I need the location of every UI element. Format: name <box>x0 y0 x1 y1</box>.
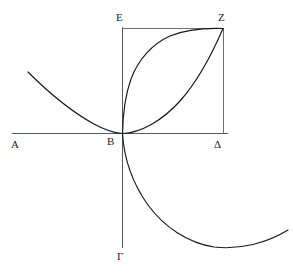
point-label-E: E <box>116 12 123 23</box>
point-label-A: Α <box>11 139 19 150</box>
geometric-figure: Α B Γ Δ E Z <box>0 0 295 275</box>
point-label-Gamma: Γ <box>117 251 123 262</box>
point-label-B: B <box>107 136 114 147</box>
point-label-Z: Z <box>218 12 225 23</box>
parabola-inner-rising-curve <box>123 28 224 133</box>
parabola-upper-left-curve <box>28 29 223 134</box>
figure-canvas <box>0 0 295 275</box>
parabola-lower-branch-curve <box>123 134 289 248</box>
point-label-Delta: Δ <box>214 139 221 150</box>
